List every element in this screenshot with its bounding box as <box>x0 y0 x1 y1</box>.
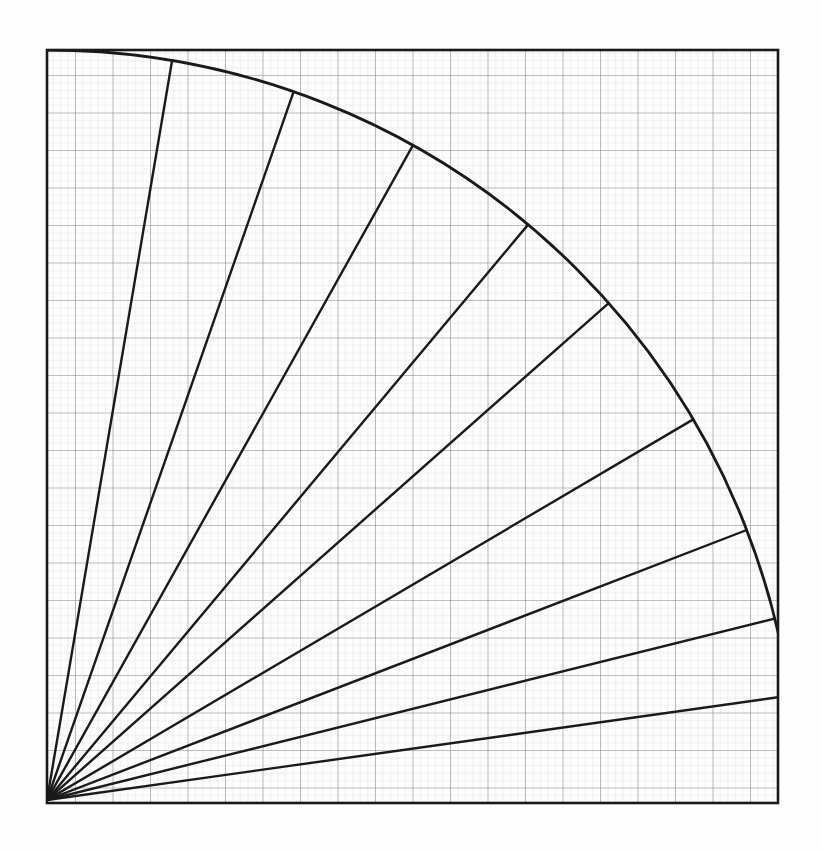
figure-page: Radial fan diagram on graph paper Quarte… <box>0 0 822 851</box>
graph-grid <box>47 50 778 803</box>
graph-paper-figure <box>0 0 822 851</box>
graph-panel <box>47 50 797 803</box>
